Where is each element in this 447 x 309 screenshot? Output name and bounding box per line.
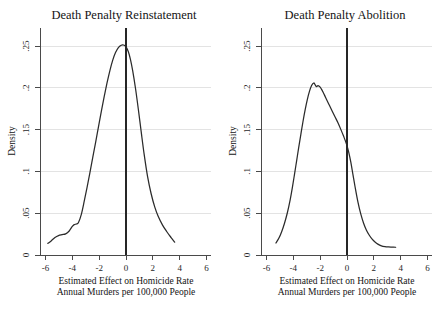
x-tick-label-right-3: 0 [345,263,350,273]
x-axis-caption-line1-right: Estimated Effect on Homicide Rate [280,276,415,286]
x-tick-label-left-1: -4 [69,263,77,273]
x-axis-caption-line1-left: Estimated Effect on Homicide Rate [59,276,194,286]
x-tick-label-left-5: 4 [177,263,182,273]
x-tick-label-left-2: -2 [95,263,103,273]
x-tick-label-right-4: 2 [372,263,377,273]
chart-svg: Death Penalty Reinstatement .25 .2 [0,0,447,309]
x-tick-label-right-1: -4 [290,263,298,273]
y-tick-label-left-4: .25 [21,40,31,52]
y-tick-label-right-0: .05 [242,207,252,219]
x-tick-label-left-4: 2 [151,263,156,273]
y-tick-label-right-1: .1 [242,168,252,175]
y-tick-label-right-zero: 0 [242,252,252,257]
x-tick-label-right-6: 6 [425,263,430,273]
y-tick-label-right-3: .2 [242,84,252,91]
x-tick-label-right-2: -2 [316,263,324,273]
y-tick-label-left-1: .1 [21,168,31,175]
x-axis-caption-line2-left: Annual Murders per 100,000 People [57,287,196,297]
panel-title-reinstatement: Death Penalty Reinstatement [51,8,197,22]
x-tick-label-left-3: 0 [124,263,129,273]
y-tick-label-left-0: .05 [21,207,31,219]
x-tick-label-left-6: 6 [204,263,209,273]
x-tick-label-right-5: 4 [398,263,403,273]
y-axis-title-left: Density [7,126,17,156]
density-plot-figure: Death Penalty Reinstatement .25 .2 [0,0,447,309]
x-tick-label-left-0: -6 [42,263,50,273]
y-tick-label-right-4: .25 [242,40,252,52]
y-tick-label-right-2: .15 [242,123,252,135]
y-axis-title-right: Density [228,126,238,156]
x-tick-label-right-0: -6 [263,263,271,273]
y-tick-label-left-2: .15 [21,123,31,135]
panel-title-abolition: Death Penalty Abolition [285,8,407,22]
x-axis-caption-line2-right: Annual Murders per 100,000 People [278,287,417,297]
y-tick-label-left-3: .2 [21,84,31,91]
y-tick-label-left-zero: 0 [21,252,31,257]
